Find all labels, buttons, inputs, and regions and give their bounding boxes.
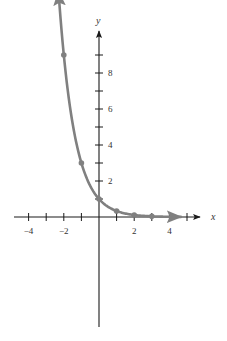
x-tick-label: −4 bbox=[24, 226, 34, 236]
data-point bbox=[131, 212, 137, 218]
x-tick-label: −2 bbox=[59, 226, 69, 236]
y-axis-label: y bbox=[95, 15, 101, 26]
exponential-graph: xy−4−2242468 bbox=[0, 0, 227, 341]
data-point bbox=[61, 52, 67, 58]
data-point bbox=[114, 208, 120, 214]
x-tick-label: 4 bbox=[167, 226, 172, 236]
y-tick-label: 4 bbox=[108, 140, 113, 150]
data-point bbox=[96, 196, 102, 202]
curve bbox=[59, 0, 181, 217]
x-tick-label: 2 bbox=[132, 226, 137, 236]
axes bbox=[14, 31, 200, 327]
y-tick-label: 6 bbox=[108, 104, 113, 114]
data-point bbox=[79, 160, 85, 166]
curve-line bbox=[59, 0, 181, 217]
y-tick-label: 2 bbox=[108, 176, 113, 186]
x-axis-label: x bbox=[210, 211, 216, 222]
axis-ticks bbox=[29, 55, 187, 221]
data-point bbox=[149, 214, 155, 220]
tick-labels: xy−4−2242468 bbox=[24, 15, 216, 236]
y-tick-label: 8 bbox=[108, 68, 113, 78]
